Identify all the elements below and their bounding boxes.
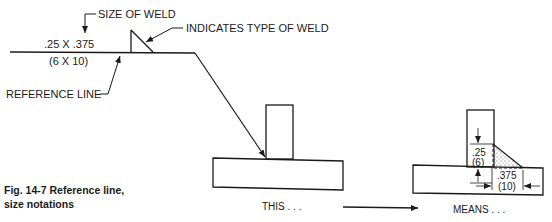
fillet-weld-symbol [131, 30, 153, 52]
figure-caption-line1: Fig. 14-7 Reference line, [4, 184, 124, 196]
reference-line [10, 52, 195, 53]
means-arrow [343, 207, 418, 208]
base-plate [213, 158, 343, 190]
reference-leader [100, 56, 120, 94]
size-of-weld-label: SIZE OF WELD [98, 8, 176, 20]
figure-caption-line2: size notations [4, 198, 74, 210]
type-of-weld-callout: INDICATES TYPE OF WELD [146, 22, 329, 42]
size-inch-value: .25 X .375 [44, 38, 94, 50]
arrow-leader [195, 53, 265, 157]
size-leader [85, 14, 96, 33]
size-mm-value: (6 X 10) [49, 55, 88, 67]
vertical-leg-mm: (6) [472, 157, 484, 168]
triangle-icon [131, 30, 153, 52]
left-tee-joint [213, 105, 343, 190]
upright-plate [266, 105, 293, 159]
right-tee-joint: .25 (6) .375 (10) [413, 110, 543, 195]
weld-diagram: SIZE OF WELD INDICATES TYPE OF WELD .25 … [0, 0, 552, 222]
reference-line-label: REFERENCE LINE [6, 88, 101, 100]
type-leader [146, 28, 183, 42]
horizontal-leg-mm: (10) [498, 181, 516, 192]
indicates-type-label: INDICATES TYPE OF WELD [186, 22, 329, 34]
this-label: THIS . . . [262, 201, 301, 212]
horizontal-leg-inch: .375 [497, 170, 517, 181]
means-label: MEANS . . . [453, 204, 505, 215]
reference-line-group [10, 52, 265, 157]
size-of-weld-callout: SIZE OF WELD [85, 8, 176, 33]
